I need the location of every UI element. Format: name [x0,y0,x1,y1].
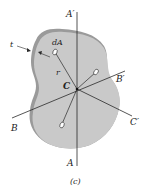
label-a: A [66,158,74,168]
label-center: C [63,81,71,91]
label-b-prime: B′ [115,74,125,84]
plate-face [32,32,119,149]
label-da: dA [52,38,63,47]
rigid-body-diagram: A′ A B B′ C′ C r dA t (c) [0,0,152,194]
center-point [76,88,79,91]
label-thickness: t [10,40,14,49]
label-b: B [10,123,18,133]
figure-caption: (c) [70,177,81,186]
label-c-prime: C′ [130,117,139,127]
thickness-arrowhead-left [27,48,31,52]
label-a-prime: A′ [65,9,75,19]
